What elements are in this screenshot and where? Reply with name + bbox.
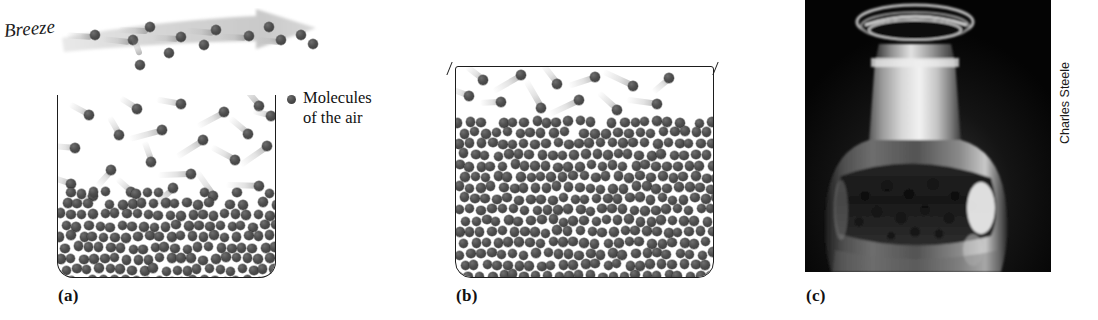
molecule (617, 250, 627, 260)
molecule (153, 211, 163, 221)
panel-label-a: (a) (58, 286, 79, 306)
molecule (226, 267, 236, 277)
molecule (542, 183, 552, 193)
figure-root: Breeze (a) Molecules of the air (b) (0, 0, 1098, 320)
molecule (84, 221, 94, 231)
molecule (601, 171, 611, 181)
molecule (173, 266, 183, 276)
molecule (598, 162, 608, 172)
molecule (272, 200, 276, 210)
molecule (643, 248, 653, 258)
molecule (519, 139, 529, 149)
molecule (258, 197, 268, 207)
molecule (624, 214, 634, 224)
molecule (188, 231, 198, 241)
molecule (607, 118, 617, 128)
molecule (684, 227, 694, 237)
molecule (586, 249, 596, 259)
molecule (475, 272, 485, 278)
molecule (708, 161, 714, 171)
molecule (186, 253, 196, 263)
molecule (658, 239, 668, 249)
molecule (128, 35, 138, 45)
molecule (132, 276, 142, 278)
molecule (527, 173, 537, 183)
molecule (596, 138, 606, 148)
molecule (520, 161, 530, 171)
molecule (167, 277, 177, 278)
molecule (110, 233, 120, 243)
molecule (146, 157, 156, 167)
molecule (647, 151, 657, 161)
molecule (516, 129, 526, 139)
molecule (513, 217, 523, 227)
molecule (476, 249, 486, 259)
molecule (514, 237, 524, 247)
molecule (455, 181, 464, 191)
molecule (575, 183, 585, 193)
molecule (634, 151, 644, 161)
molecule (492, 128, 502, 138)
molecule (673, 228, 683, 238)
molecule (99, 275, 109, 278)
molecule (593, 149, 603, 159)
molecule (231, 209, 241, 219)
molecule (546, 261, 556, 271)
molecule (690, 193, 700, 203)
molecule (510, 227, 520, 237)
molecule (134, 255, 144, 265)
molecule (494, 152, 504, 162)
molecule (531, 248, 541, 258)
molecule (620, 272, 630, 278)
molecule (154, 188, 164, 198)
molecule (487, 227, 497, 237)
molecule (182, 198, 192, 208)
molecule (488, 138, 498, 148)
molecule (110, 208, 120, 218)
container-lip-right-icon (712, 62, 731, 75)
molecule (216, 265, 226, 275)
liquid-region-panel-b (456, 117, 714, 278)
molecule (696, 271, 706, 278)
molecule (204, 242, 214, 252)
molecule (691, 171, 701, 181)
molecule (159, 242, 169, 252)
molecule (503, 127, 513, 137)
panel-label-c: (c) (806, 286, 826, 306)
liquid-region-panel-a (58, 188, 276, 278)
molecule (87, 232, 97, 242)
molecule (569, 150, 579, 160)
molecule (211, 25, 221, 35)
molecule (685, 161, 695, 171)
molecule (232, 232, 242, 242)
molecule (220, 233, 230, 243)
molecule (101, 187, 111, 197)
molecule (491, 217, 501, 227)
molecule (643, 271, 653, 278)
molecule (296, 30, 306, 40)
molecule (651, 184, 661, 194)
molecule (127, 222, 137, 232)
molecule (588, 227, 598, 237)
molecule (549, 128, 559, 138)
molecule (613, 215, 623, 225)
molecule (464, 91, 474, 101)
molecule (596, 185, 606, 195)
molecule (563, 116, 573, 126)
molecule (106, 165, 116, 175)
molecule (614, 171, 624, 181)
molecule (618, 162, 628, 172)
molecule (552, 181, 562, 191)
molecule (640, 160, 650, 170)
molecule (115, 264, 125, 274)
molecule (460, 129, 470, 139)
molecule (96, 222, 106, 232)
molecule (662, 117, 672, 127)
molecule (276, 35, 286, 45)
molecule (676, 249, 686, 259)
molecule (587, 160, 597, 170)
molecule (502, 193, 512, 203)
molecule (498, 204, 508, 214)
molecule (194, 221, 204, 231)
molecule (519, 272, 529, 278)
